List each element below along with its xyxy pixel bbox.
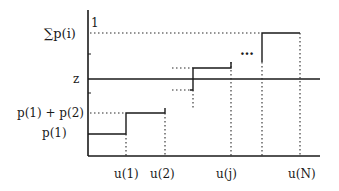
label-sum: ∑p(i) (44, 26, 76, 41)
label-uj: u(j) (216, 167, 237, 181)
step-N (262, 33, 300, 62)
label-p1: p(1) (42, 126, 67, 140)
label-u2: u(2) (150, 167, 175, 181)
label-p1p2: p(1) + p(2) (17, 106, 84, 120)
step-1 (88, 108, 165, 134)
label-z: z (73, 72, 79, 86)
label-uN: u(N) (288, 167, 316, 181)
label-one: 1 (91, 16, 99, 30)
ellipsis: … (240, 42, 254, 58)
label-u1: u(1) (114, 167, 139, 181)
step-function-diagram: … ∑p(i) 1 z p(1) + p(2) p(1) u(1) u(2) u… (0, 0, 339, 191)
step-j (190, 62, 231, 90)
